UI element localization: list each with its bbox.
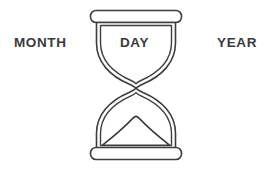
hourglass-icon	[0, 0, 269, 170]
hourglass-bottom-cap	[91, 148, 182, 160]
hourglass-upper-bulb-outer	[97, 23, 176, 89]
diagram-canvas: MONTH DAY YEAR	[0, 0, 269, 170]
hourglass-top-cap	[91, 11, 182, 23]
label-year: YEAR	[217, 36, 257, 50]
